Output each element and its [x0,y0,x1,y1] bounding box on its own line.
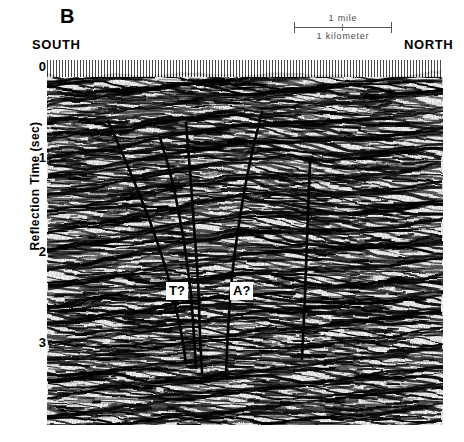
seismic-section: T? A? [47,60,443,425]
panel-letter: B [60,6,74,26]
scale-bar-kilometer-label: 1 kilometer [294,32,392,41]
y-axis-title: Reflection Time (sec) [29,106,41,266]
scale-bar: 1 mile 1 kilometer [294,12,392,44]
seismic-figure: B SOUTH NORTH 1 mile 1 kilometer Reflect… [0,0,464,442]
y-tick-label-2: 2 [18,245,46,258]
fault-trace-fault-4 [226,112,262,377]
y-tick-label-1: 1 [18,151,46,164]
y-tick-label-0: 0 [18,60,46,73]
scale-bar-mile-label: 1 mile [294,14,392,23]
direction-label-south: SOUTH [32,38,81,51]
fault-lines [47,60,443,425]
fault-annotation-layer: T? A? [47,60,443,425]
fault-label-a: A? [230,282,253,300]
fault-label-t: T? [166,282,188,300]
scale-bar-mid-tick [342,24,343,31]
scale-bar-line [294,27,392,28]
fault-trace-fault-1 [108,121,186,364]
direction-label-north: NORTH [404,38,453,51]
y-tick-label-3: 3 [18,336,46,349]
fault-trace-fault-5 [302,162,310,359]
